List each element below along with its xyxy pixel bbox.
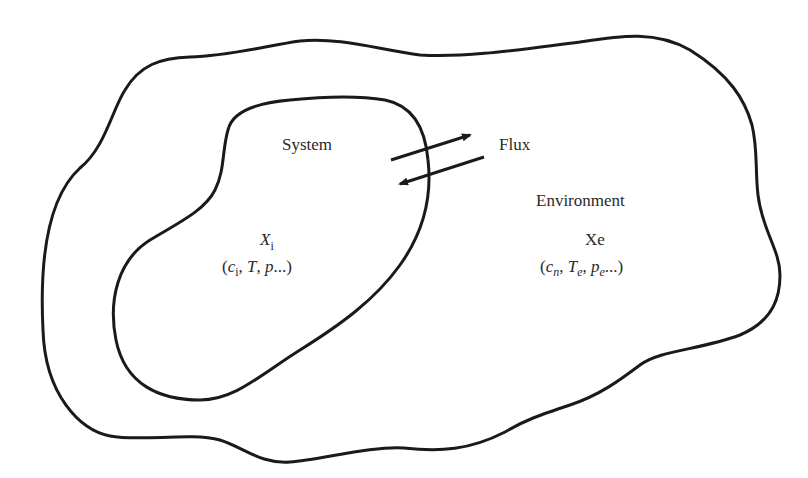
flux-label: Flux — [499, 135, 531, 154]
flux-arrow-inward — [400, 157, 484, 184]
flux-arrow-outward — [391, 135, 470, 160]
system-variables: (ci, T, p...) — [222, 257, 292, 279]
environment-label: Environment — [536, 191, 625, 210]
system-environment-diagram: System Flux Xi (ci, T, p...) Environment… — [0, 0, 808, 478]
environment-variables: (cn, Te, pe...) — [540, 257, 623, 279]
system-state-symbol: Xi — [259, 230, 274, 253]
environment-state-symbol: Xe — [585, 230, 605, 249]
system-label: System — [282, 135, 332, 154]
